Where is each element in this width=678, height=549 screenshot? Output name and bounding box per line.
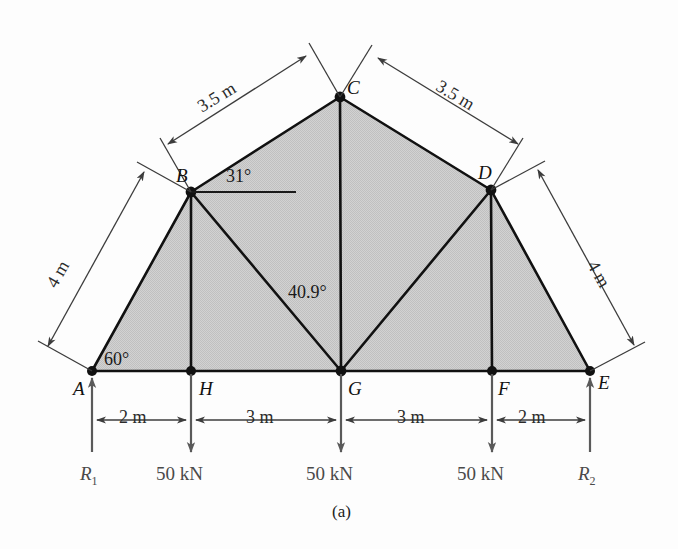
reaction-subscript-R1: 1	[92, 474, 98, 488]
reaction-label-R1: R1	[80, 464, 98, 487]
load-label-F: 50 kN	[457, 464, 504, 483]
dim-label-G-F: 3 m	[397, 408, 425, 426]
load-label-H: 50 kN	[156, 464, 203, 483]
node-label-C: C	[347, 78, 360, 97]
figure-caption: (a)	[332, 503, 351, 520]
ext-line-E-perp	[590, 342, 645, 371]
ext-line-D-perp	[491, 138, 523, 190]
reaction-label-R2: R2	[578, 464, 596, 487]
dim-label-A-H: 2 m	[119, 408, 147, 426]
ext-line-A-perp	[38, 341, 92, 371]
truss-figure: A B C D E F G H 60° 31° 40.9° 4 m 3.5 m …	[0, 0, 678, 549]
node-label-A: A	[73, 379, 85, 398]
node-label-B: B	[176, 166, 188, 185]
member-D-F	[491, 190, 492, 371]
angle-label-A: 60°	[104, 350, 129, 368]
load-label-G: 50 kN	[306, 464, 353, 483]
reaction-symbol-R1: R	[80, 463, 92, 484]
ext-line-C-perp	[309, 43, 340, 97]
node-label-G: G	[348, 379, 362, 398]
node-label-E: E	[598, 373, 610, 392]
reaction-subscript-R2: 2	[590, 474, 596, 488]
ext-line-D-perp2	[491, 161, 545, 190]
node-label-F: F	[498, 379, 510, 398]
dim-label-F-E: 2 m	[518, 408, 546, 426]
angle-label-G: 40.9°	[288, 283, 327, 301]
angle-label-B: 31°	[226, 167, 251, 185]
dim-label-H-G: 3 m	[246, 408, 274, 426]
reaction-symbol-R2: R	[578, 463, 590, 484]
applied-loads	[191, 374, 492, 452]
member-C-G	[340, 97, 341, 371]
node-label-H: H	[199, 379, 213, 398]
node-label-D: D	[478, 163, 492, 182]
